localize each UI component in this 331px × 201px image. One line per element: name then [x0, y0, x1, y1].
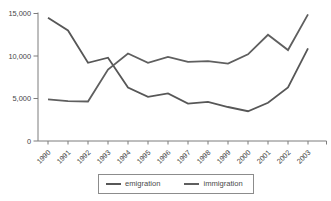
x-axis-tick-label: 1999: [215, 148, 233, 166]
x-axis-tick-label: 1996: [155, 148, 173, 166]
emigration-line: [48, 18, 308, 112]
x-axis-tick-label: 2003: [295, 148, 313, 166]
x-axis-tick-label: 1994: [115, 148, 133, 166]
chart-legend: emigration immigration: [98, 174, 254, 194]
chart-canvas: 05,00010,00015,0001990199119921993199419…: [0, 0, 331, 172]
legend-label-emigration: emigration: [125, 180, 160, 188]
immigration-line: [48, 14, 308, 101]
legend-item-immigration: immigration: [184, 180, 242, 188]
x-axis-tick-label: 1990: [35, 148, 53, 166]
migration-line-chart-figure: 05,00010,00015,0001990199119921993199419…: [0, 0, 331, 201]
y-axis-tick-label: 10,000: [8, 52, 31, 61]
x-axis-tick-label: 2002: [275, 148, 293, 166]
y-axis-tick-label: 0: [27, 137, 31, 146]
immigration-line-sample-icon: [184, 183, 199, 185]
x-axis-tick-label: 1993: [95, 148, 113, 166]
x-axis-tick-label: 1995: [135, 148, 153, 166]
y-axis-tick-label: 5,000: [13, 94, 32, 103]
x-axis-tick-label: 1998: [195, 148, 213, 166]
legend-item-emigration: emigration: [106, 180, 160, 188]
x-axis-tick-label: 1992: [75, 148, 93, 166]
legend-label-immigration: immigration: [203, 180, 242, 188]
x-axis-tick-label: 1991: [55, 148, 73, 166]
emigration-line-sample-icon: [106, 183, 121, 185]
x-axis-tick-label: 2000: [235, 148, 253, 166]
x-axis-tick-label: 1997: [175, 148, 193, 166]
y-axis-tick-label: 15,000: [8, 9, 31, 18]
x-axis-tick-label: 2001: [255, 148, 273, 166]
